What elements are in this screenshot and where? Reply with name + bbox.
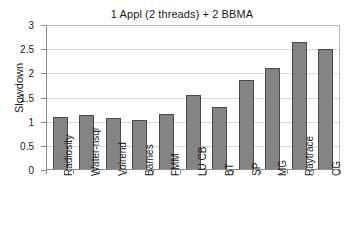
x-axis-tick-label: SP — [233, 174, 260, 234]
bar-chart: 1 Appl (2 threads) + 2 BBMA Slowdown 00.… — [0, 0, 364, 236]
x-axis-tick-label-text: Volrend — [117, 142, 128, 176]
x-axis-tick-label: CG — [313, 174, 340, 234]
bar — [212, 107, 227, 169]
chart-title: 1 Appl (2 threads) + 2 BBMA — [0, 8, 364, 20]
x-axis-tick-label: Raytrace — [287, 174, 314, 234]
y-axis-tick-label: 0.5 — [8, 140, 34, 151]
x-axis-tick-label-text: Radiosity — [63, 135, 74, 176]
x-axis-tick-label-text: Raytrace — [304, 136, 315, 176]
x-axis-tick-label: Volrend — [99, 174, 126, 234]
x-axis-tick-label-text: FMM — [170, 153, 181, 176]
x-axis-tick-label-text: CG — [331, 161, 342, 176]
x-axis-tick-label-text: LU CB — [197, 147, 208, 176]
x-axis-tick-labels: RadiosityWater-nsqrVolrendBarnesFMMLU CB… — [46, 174, 340, 234]
bar-slot — [153, 25, 180, 169]
y-axis-tick-label: 2 — [8, 68, 34, 79]
y-axis-tick-label: 0 — [8, 165, 34, 176]
x-axis-tick-label: LU CB — [180, 174, 207, 234]
bar — [239, 80, 254, 169]
x-axis-tick-label: FMM — [153, 174, 180, 234]
bar — [265, 68, 280, 170]
y-axis-tick-label: 3 — [8, 20, 34, 31]
x-axis-tick-label-text: Barnes — [144, 144, 155, 176]
bar-slot — [206, 25, 233, 169]
x-axis-tick-label: Barnes — [126, 174, 153, 234]
x-axis-tick-label: BT — [206, 174, 233, 234]
x-axis-tick-label: Water-nsqr — [73, 174, 100, 234]
y-axis-tick-label: 1.5 — [8, 92, 34, 103]
y-axis-tick-label: 1 — [8, 116, 34, 127]
x-axis-tick-label-text: Water-nsqr — [90, 127, 101, 176]
bar-slot — [233, 25, 260, 169]
x-axis-tick-label: MG — [260, 174, 287, 234]
y-axis-tick-label: 2.5 — [8, 44, 34, 55]
bar-slot — [259, 25, 286, 169]
bar — [318, 49, 333, 169]
x-axis-tick-label: Radiosity — [46, 174, 73, 234]
bar-slot — [312, 25, 339, 169]
